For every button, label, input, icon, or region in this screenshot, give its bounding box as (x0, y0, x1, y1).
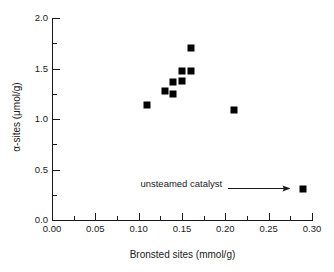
y-tick-label: 1.5 (35, 64, 48, 74)
x-tick-label: 0.05 (86, 224, 105, 234)
y-tick-label: 0.0 (35, 215, 48, 225)
x-tick (52, 213, 53, 220)
y-axis-tick-labels: 0.00.51.01.52.0 (0, 0, 48, 272)
data-point-marker (300, 185, 307, 192)
y-tick (53, 43, 57, 44)
x-tick (290, 216, 291, 220)
data-point-marker (231, 106, 238, 113)
y-tick (53, 170, 60, 171)
data-point-marker (144, 101, 151, 108)
y-axis-title: α-sites (μmol/g) (12, 47, 22, 187)
y-tick-label: 1.0 (35, 114, 48, 124)
y-tick-label: 0.5 (35, 165, 48, 175)
x-tick-label: 0.10 (129, 224, 148, 234)
x-tick-label: 0.25 (259, 224, 278, 234)
x-tick (74, 216, 75, 220)
data-point-marker (187, 45, 194, 52)
data-point-marker (179, 77, 186, 84)
x-axis-title: Bronsted sites (mmol/g) (52, 250, 313, 260)
x-axis-line (52, 220, 313, 221)
y-tick (53, 195, 57, 196)
x-tick-label: 0.30 (303, 224, 322, 234)
x-tick (269, 213, 270, 220)
y-tick-label: 2.0 (35, 13, 48, 23)
y-tick (53, 119, 60, 120)
x-tick (160, 216, 161, 220)
annotation-label: unsteamed catalyst (140, 179, 222, 189)
x-tick-label: 0.15 (173, 224, 192, 234)
data-point-marker (170, 90, 177, 97)
y-tick (53, 220, 60, 221)
data-point-marker (187, 67, 194, 74)
y-tick (53, 69, 60, 70)
x-tick (247, 216, 248, 220)
x-tick (204, 216, 205, 220)
x-tick (312, 213, 313, 220)
y-tick (53, 18, 60, 19)
x-tick (117, 216, 118, 220)
y-tick (53, 144, 57, 145)
x-tick (225, 213, 226, 220)
annotation-arrow-icon (228, 184, 290, 193)
data-point-marker (179, 67, 186, 74)
data-point-marker (170, 78, 177, 85)
x-tick-label: 0.20 (216, 224, 235, 234)
x-tick (139, 213, 140, 220)
x-tick (182, 213, 183, 220)
y-tick (53, 94, 57, 95)
x-tick (95, 213, 96, 220)
scatter-chart-figure: 0.000.050.100.150.200.250.30 0.00.51.01.… (0, 0, 334, 272)
data-point-marker (161, 87, 168, 94)
